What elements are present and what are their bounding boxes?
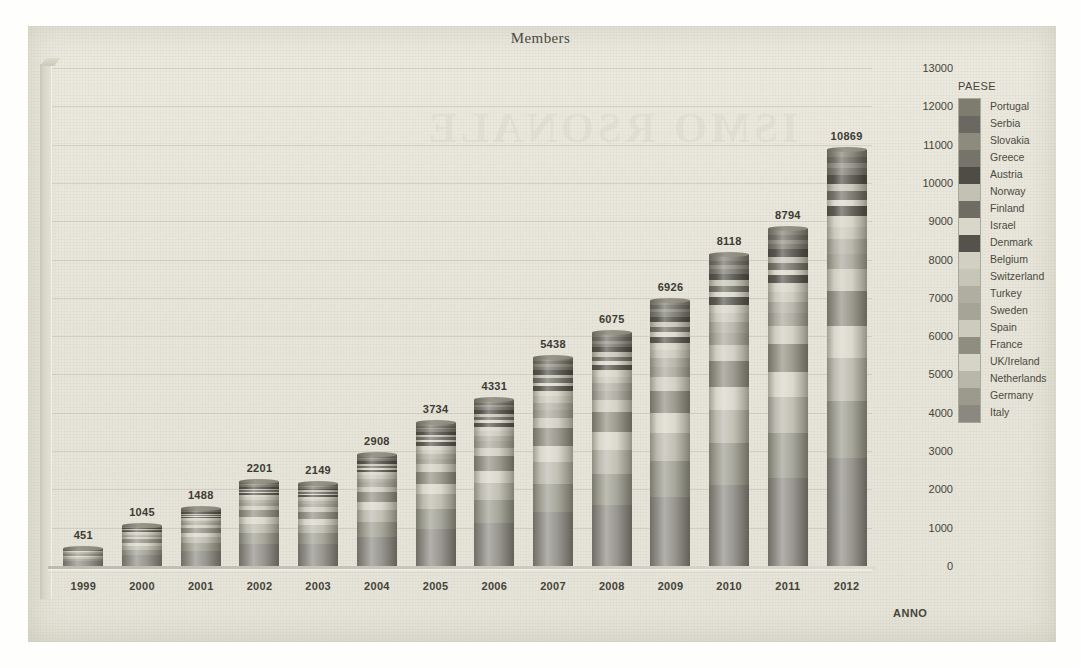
bar-segment — [650, 350, 690, 358]
bar-segment — [768, 326, 808, 344]
bar-segment — [827, 184, 867, 191]
stacked-bar[interactable] — [357, 455, 397, 566]
legend-label: Slovakia — [990, 132, 1047, 149]
bar-segment — [827, 291, 867, 326]
bar-slot: 21492003 — [289, 68, 348, 566]
bar-segment — [357, 492, 397, 501]
bar-segment — [650, 358, 690, 367]
legend-label: Israel — [990, 217, 1047, 234]
legend-label: Norway — [990, 183, 1047, 200]
bar-slot: 29082004 — [348, 68, 407, 566]
bar-segment — [239, 533, 279, 544]
legend-label: France — [990, 336, 1047, 353]
stacked-bar[interactable] — [181, 509, 221, 566]
x-axis-tick: 2001 — [172, 580, 230, 592]
x-axis-tick: 2010 — [700, 580, 758, 592]
bar-segment — [768, 302, 808, 313]
x-axis-tick: 2007 — [524, 580, 582, 592]
legend-swatch — [959, 116, 980, 133]
legend-swatch — [959, 235, 980, 252]
bar-slot: 108692012 — [817, 68, 876, 566]
bar-segment — [122, 555, 162, 565]
legend-label: Finland — [990, 200, 1047, 217]
stacked-bar[interactable] — [239, 482, 279, 566]
y-axis-tick: 11000 — [895, 139, 953, 151]
bar-value-label: 5438 — [524, 338, 582, 350]
stacked-bar[interactable] — [592, 333, 632, 566]
bar-segment — [768, 263, 808, 270]
bar-segment — [768, 283, 808, 292]
stacked-bar[interactable] — [122, 526, 162, 566]
legend-label: Belgium — [990, 251, 1047, 268]
bar-segment — [827, 227, 867, 239]
bar-segment — [63, 561, 103, 565]
legend-swatch — [959, 320, 980, 337]
bar-value-label: 4331 — [465, 380, 523, 392]
stacked-bar[interactable] — [533, 358, 573, 566]
x-axis-tick: 2009 — [641, 580, 699, 592]
x-axis-tick: 2002 — [230, 580, 288, 592]
chart-title: Members — [0, 30, 1081, 47]
bar-segment — [768, 275, 808, 283]
bar-value-label: 8118 — [700, 235, 758, 247]
bar-top-ellipse — [239, 479, 279, 484]
bar-slot: 22012002 — [230, 68, 289, 566]
bar-group: 4511999104520001488200122012002214920032… — [54, 68, 876, 566]
legend-label: Serbia — [990, 115, 1047, 132]
bar-top-ellipse — [357, 452, 397, 457]
legend-swatch — [959, 371, 980, 388]
stacked-bar[interactable] — [650, 301, 690, 566]
y-axis-tick: 4000 — [895, 407, 953, 419]
bar-segment — [650, 461, 690, 497]
bar-segment — [650, 391, 690, 414]
bar-segment — [768, 478, 808, 566]
bar-segment — [650, 343, 690, 350]
y-axis-tick: 13000 — [895, 62, 953, 74]
bar-segment — [709, 485, 749, 566]
bar-segment — [416, 529, 456, 566]
x-axis-tick: 2006 — [465, 580, 523, 592]
stacked-bar[interactable] — [709, 255, 749, 566]
legend: PAESE PortugalSerbiaSlovakiaGreeceAustri… — [958, 80, 1078, 423]
bar-segment — [768, 397, 808, 432]
bar-segment — [181, 543, 221, 551]
y-axis-tick: 3000 — [895, 445, 953, 457]
bar-segment — [827, 175, 867, 184]
bar-segment — [592, 432, 632, 449]
stacked-bar[interactable] — [768, 229, 808, 566]
x-axis-tick: 2008 — [583, 580, 641, 592]
bar-segment — [709, 305, 749, 313]
bar-slot: 81182010 — [700, 68, 759, 566]
bar-segment — [474, 471, 514, 483]
bar-value-label: 6075 — [583, 313, 641, 325]
legend-body: PortugalSerbiaSlovakiaGreeceAustriaNorwa… — [958, 98, 1078, 423]
bar-slot: 4511999 — [54, 68, 113, 566]
bar-segment — [827, 239, 867, 253]
stacked-bar[interactable] — [416, 423, 456, 566]
bar-segment — [709, 443, 749, 485]
stacked-bar[interactable] — [298, 484, 338, 566]
bar-slot: 10452000 — [113, 68, 172, 566]
bar-segment — [298, 512, 338, 519]
x-axis-tick: 2000 — [113, 580, 171, 592]
bar-segment — [650, 367, 690, 377]
bar-segment — [827, 200, 867, 207]
stacked-bar[interactable] — [474, 400, 514, 566]
y-axis-tick: 10000 — [895, 177, 953, 189]
stacked-bar[interactable] — [827, 150, 867, 566]
legend-title: PAESE — [958, 80, 1078, 92]
bar-segment — [827, 401, 867, 457]
legend-label: Denmark — [990, 234, 1047, 251]
legend-swatch — [959, 286, 980, 303]
bar-value-label: 2149 — [289, 464, 347, 476]
bar-segment — [533, 446, 573, 462]
bar-segment — [768, 433, 808, 478]
stacked-bar[interactable] — [63, 549, 103, 566]
bar-segment — [416, 484, 456, 495]
bar-segment — [768, 292, 808, 302]
legend-swatch — [959, 354, 980, 371]
bar-segment — [474, 523, 514, 566]
bar-top-ellipse — [298, 481, 338, 486]
bar-segment — [768, 372, 808, 397]
bar-segment — [827, 254, 867, 270]
